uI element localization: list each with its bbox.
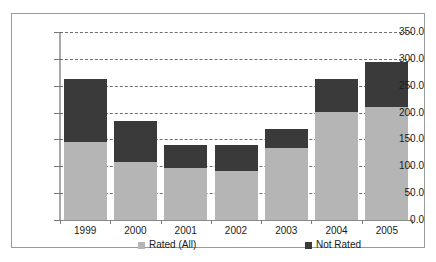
- legend-label: Not Rated: [316, 239, 361, 251]
- x-axis-line: [59, 220, 413, 221]
- bar-segment-rated-all[interactable]: [164, 168, 207, 220]
- legend-entry[interactable]: Not Rated: [305, 239, 361, 251]
- bar-segment-not-rated[interactable]: [315, 79, 358, 111]
- y-axis-tickmark: [54, 166, 60, 167]
- y-axis-tick-label: 150.0: [380, 134, 424, 144]
- x-axis-tickmark: [261, 220, 262, 224]
- bar-group[interactable]: [315, 32, 358, 220]
- y-axis-tickmark: [54, 59, 60, 60]
- x-axis-tick-label: 2003: [261, 225, 311, 237]
- y-axis-tick-label: 50.0: [380, 188, 424, 198]
- bar-group[interactable]: [265, 32, 308, 220]
- y-axis-tickmark: [54, 113, 60, 114]
- bar-group[interactable]: [64, 32, 107, 220]
- y-axis-tickmark: [54, 32, 60, 33]
- bar-group[interactable]: [164, 32, 207, 220]
- x-axis-tickmark: [110, 220, 111, 224]
- x-axis-tick-label: 2004: [311, 225, 361, 237]
- x-axis-tickmark: [60, 220, 61, 224]
- plot-area: [60, 32, 412, 220]
- chart-legend: Rated (All)Not Rated: [60, 239, 412, 253]
- y-axis-tickmark: [54, 86, 60, 87]
- y-axis-tickmark: [54, 193, 60, 194]
- square-light-gray-icon: [138, 242, 145, 249]
- x-axis-tickmark: [161, 220, 162, 224]
- y-axis-tick-label: 350.0: [380, 27, 424, 37]
- x-axis-tick-label: 2000: [110, 225, 160, 237]
- bar-segment-rated-all[interactable]: [315, 112, 358, 221]
- bar-segment-not-rated[interactable]: [215, 145, 258, 170]
- y-axis-tickmark: [54, 220, 60, 221]
- bar-segment-rated-all[interactable]: [64, 142, 107, 220]
- bar-group[interactable]: [114, 32, 157, 220]
- bar-segment-not-rated[interactable]: [64, 79, 107, 142]
- x-axis-tickmark: [311, 220, 312, 224]
- bar-segment-not-rated[interactable]: [164, 145, 207, 168]
- bar-segment-rated-all[interactable]: [215, 171, 258, 220]
- y-axis-tick-label: 200.0: [380, 108, 424, 118]
- y-axis-tick-label: 0.0: [380, 215, 424, 225]
- bar-segment-not-rated[interactable]: [114, 121, 157, 162]
- legend-label: Rated (All): [149, 239, 196, 251]
- bars-layer: [60, 32, 412, 220]
- bar-segment-rated-all[interactable]: [265, 148, 308, 220]
- y-axis-tick-label: 300.0: [380, 54, 424, 64]
- x-axis-tick-label: 2001: [161, 225, 211, 237]
- bar-group[interactable]: [215, 32, 258, 220]
- bar-segment-not-rated[interactable]: [265, 129, 308, 148]
- x-axis-tickmark: [211, 220, 212, 224]
- square-dark-gray-icon: [305, 242, 312, 249]
- chart-frame: 1999200020012002200320042005 Rated (All)…: [11, 13, 425, 248]
- x-axis-tickmark: [362, 220, 363, 224]
- x-axis-tick-label: 2002: [211, 225, 261, 237]
- x-axis-tick-label: 1999: [60, 225, 110, 237]
- x-axis-tick-label: 2005: [362, 225, 412, 237]
- y-axis-tick-label: 100.0: [380, 161, 424, 171]
- y-axis-tick-label: 250.0: [380, 81, 424, 91]
- bar-segment-rated-all[interactable]: [114, 162, 157, 220]
- legend-entry[interactable]: Rated (All): [138, 239, 196, 251]
- y-axis-tickmark: [54, 139, 60, 140]
